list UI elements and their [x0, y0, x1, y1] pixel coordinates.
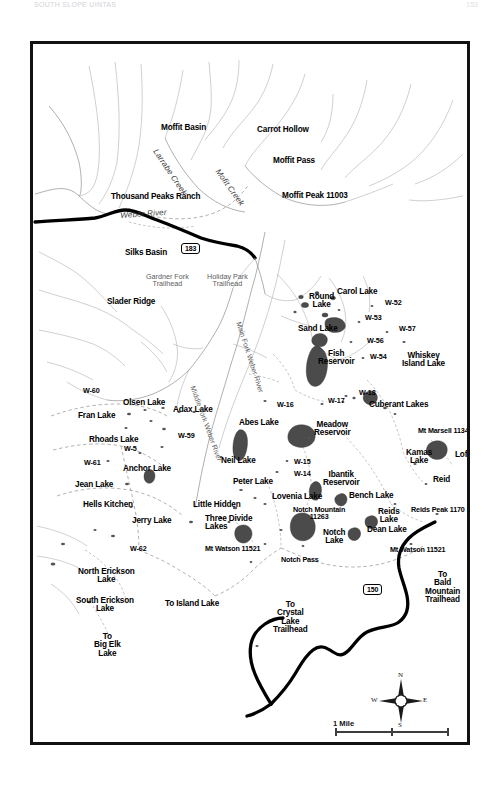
place-label-whiskey-island-lake[interactable]: Whiskey Island Lake: [402, 352, 445, 369]
waypoint-label-w-62[interactable]: W-62: [130, 545, 147, 552]
shield-183[interactable]: 183: [181, 243, 200, 254]
waypoint-label-w-54[interactable]: W-54: [370, 353, 387, 360]
place-label-anchor-lake[interactable]: Anchor Lake: [123, 465, 171, 473]
place-label-notch-mountain-11263[interactable]: Notch Mountain 11263: [293, 506, 345, 521]
trailhead-label-holiday-park-trailhead[interactable]: Holiday Park Trailhead: [207, 273, 248, 288]
waypoint-label-w-61[interactable]: W-61: [84, 459, 101, 466]
place-label-notch-lake[interactable]: Notch Lake: [323, 529, 345, 546]
compass-east-label: E: [423, 696, 427, 704]
waypoint-label-w-53[interactable]: W-53: [365, 314, 382, 321]
waypoint-label-w-14[interactable]: W-14: [294, 470, 311, 477]
river-label-weber-river: Weber River: [120, 209, 167, 220]
scale-bar-label-1-mile: 1 Mile: [333, 719, 354, 728]
waypoint-label-w-15[interactable]: W-15: [294, 458, 311, 465]
place-label-sand-lake[interactable]: Sand Lake: [298, 325, 338, 333]
place-label-meadow-reservoir[interactable]: Meadow Reservoir: [314, 421, 350, 438]
place-label-carrot-hollow[interactable]: Carrot Hollow: [257, 126, 309, 134]
waypoint-label-w-17[interactable]: W-17: [328, 397, 345, 404]
place-label-reids-lake[interactable]: Reids Lake: [378, 508, 400, 525]
place-label-abes-lake[interactable]: Abes Lake: [239, 419, 279, 427]
river-label-middle-fork-weber-river: Middle Fork Weber River: [189, 385, 223, 462]
waypoint-label-w-56[interactable]: W-56: [367, 337, 384, 344]
place-label-north-erickson-lake[interactable]: North Erickson Lake: [78, 568, 135, 585]
place-label-moffit-peak-11003[interactable]: Moffit Peak 11003: [282, 192, 348, 200]
place-label-jean-lake[interactable]: Jean Lake: [75, 481, 113, 489]
place-label-peter-lake[interactable]: Peter Lake: [233, 478, 273, 486]
place-label-to-bald-mountain-trailhead[interactable]: To Bald Mountain Trailhead: [425, 571, 460, 604]
place-label-bench-lake[interactable]: Bench Lake: [349, 492, 393, 500]
place-label-kamas-lake[interactable]: Kamas Lake: [406, 449, 432, 466]
place-label-notch-pass[interactable]: Notch Pass: [281, 556, 319, 563]
place-label-slader-ridge[interactable]: Slader Ridge: [107, 298, 155, 306]
scale-bar-tick: [391, 728, 393, 736]
place-label-to-big-elk-lake[interactable]: To Big Elk Lake: [94, 633, 121, 658]
page-header: SOUTH SLOPE UINTAS 153: [0, 0, 496, 16]
place-label-moffit-pass[interactable]: Moffit Pass: [273, 157, 315, 165]
compass-west-label: W: [371, 696, 378, 704]
place-label-hells-kitchen[interactable]: Hells Kitchen: [83, 501, 133, 509]
place-label-lofty[interactable]: Lofty: [455, 451, 467, 459]
place-label-cuberant-lakes[interactable]: Cuberant Lakes: [369, 401, 428, 409]
waypoint-label-w-16[interactable]: W-16: [277, 401, 294, 408]
place-label-olsen-lake[interactable]: Olsen Lake: [123, 399, 165, 407]
compass-north-label: N: [398, 671, 403, 679]
waypoint-label-w-52[interactable]: W-52: [385, 299, 402, 306]
map-canvas[interactable]: .riv { fill:none; stroke:#8e8e8e; stroke…: [33, 44, 467, 742]
place-label-carol-lake[interactable]: Carol Lake: [337, 288, 377, 296]
shield-150[interactable]: 150: [363, 584, 382, 595]
place-label-to-crystal-lake-trailhead[interactable]: To Crystal Lake Trailhead: [273, 601, 308, 634]
waypoint-label-w-18[interactable]: W-18: [359, 389, 376, 396]
compass-rose: N S W E: [371, 671, 431, 731]
place-label-moffit-basin[interactable]: Moffit Basin: [161, 124, 206, 132]
compass-south-label: S: [398, 721, 402, 729]
trailhead-label-gardner-fork-trailhead[interactable]: Gardner Fork Trailhead: [146, 273, 189, 288]
place-label-neil-lake[interactable]: Neil Lake: [221, 457, 256, 465]
place-label-to-island-lake[interactable]: To Island Lake: [165, 600, 219, 608]
place-label-ibantik-reservoir[interactable]: Ibantik Reservoir: [323, 471, 359, 488]
page-number: 153: [466, 1, 478, 8]
map-frame: .riv { fill:none; stroke:#8e8e8e; stroke…: [30, 41, 470, 745]
river-label-main-fork-weber-river: Main Fork Weber River: [235, 321, 265, 393]
place-label-fran-lake[interactable]: Fran Lake: [78, 412, 115, 420]
place-label-lovenia-lake[interactable]: Lovenia Lake: [272, 493, 322, 501]
map-label-layer: Moffit BasinCarrot HollowMoffit PassMoff…: [33, 44, 467, 742]
waypoint-label-w-59[interactable]: W-59: [178, 432, 195, 439]
place-label-mt-watson-11521[interactable]: Mt Watson 11521: [205, 545, 260, 552]
place-label-mt-watson-11521[interactable]: Mt Watson 11521: [390, 546, 445, 553]
waypoint-label-w-5[interactable]: W-5: [124, 445, 137, 452]
place-label-three-divide-lakes[interactable]: Three Divide Lakes: [205, 515, 252, 532]
place-label-jerry-lake[interactable]: Jerry Lake: [132, 517, 171, 525]
river-label-mofit-creek: Mofit Creek: [213, 168, 245, 208]
place-label-silks-basin[interactable]: Silks Basin: [125, 249, 167, 257]
river-label-larrabe-creek: Larrabe Creek: [151, 148, 188, 197]
place-label-fish-reservoir[interactable]: Fish Reservoir: [318, 350, 354, 367]
place-label-round-lake[interactable]: Round Lake: [309, 293, 334, 310]
place-label-reid[interactable]: Reid: [433, 476, 450, 484]
waypoint-label-w-60[interactable]: W-60: [83, 387, 100, 394]
page-header-left-text: SOUTH SLOPE UINTAS: [34, 1, 116, 8]
place-label-dean-lake[interactable]: Dean Lake: [367, 526, 407, 534]
place-label-south-erickson-lake[interactable]: South Erickson Lake: [76, 597, 134, 614]
place-label-little-hidden[interactable]: Little Hidden: [193, 501, 241, 509]
scale-bar-tick: [335, 728, 337, 736]
scale-bar-tick: [447, 728, 449, 736]
place-label-reids-peak-1170[interactable]: Reids Peak 1170: [411, 506, 465, 513]
waypoint-label-w-57[interactable]: W-57: [399, 325, 416, 332]
place-label-thousand-peaks-ranch[interactable]: Thousand Peaks Ranch: [111, 193, 200, 201]
scan-artifact: [36, 756, 156, 778]
place-label-mt-marsell-11340[interactable]: Mt Marsell 11340: [418, 427, 467, 434]
